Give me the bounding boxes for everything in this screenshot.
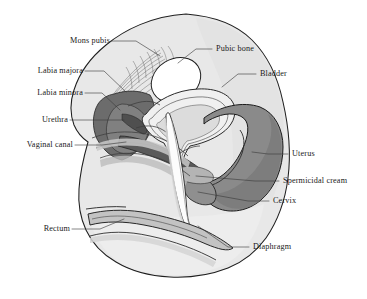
label-labia-minora: Labia minora [0,89,83,97]
label-spermicidal-cream: Spermicidal cream [283,177,347,185]
label-mons-pubis: Mons pubis [16,37,110,45]
label-cervix: Cervix [273,197,296,205]
label-rectum: Rectum [0,225,70,233]
anatomical-figure: Mons pubis Labia majora Labia minora Ure… [0,0,367,299]
label-bladder: Bladder [260,70,287,78]
label-labia-majora: Labia majora [0,67,83,75]
label-diaphragm: Diaphragm [253,243,291,251]
label-pubic-bone: Pubic bone [216,45,254,53]
label-uterus: Uterus [292,150,315,158]
label-urethra: Urethra [0,116,68,124]
label-vaginal-canal: Vaginal canal [0,141,73,149]
